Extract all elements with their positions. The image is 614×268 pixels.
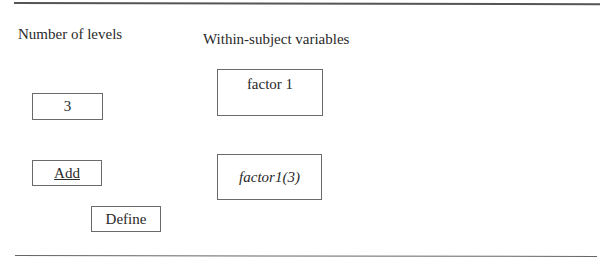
- list-item[interactable]: factor1(3): [239, 169, 300, 186]
- within-subject-variables-list[interactable]: factor1(3): [217, 154, 322, 200]
- define-button-label: Define: [106, 211, 147, 228]
- number-of-levels-label: Number of levels: [18, 26, 122, 43]
- define-button[interactable]: Define: [91, 206, 161, 232]
- add-button-label: Add: [54, 165, 80, 182]
- number-of-levels-input[interactable]: 3: [32, 93, 103, 120]
- within-subject-variables-label: Within-subject variables: [203, 31, 349, 48]
- add-button[interactable]: Add: [32, 160, 102, 186]
- number-of-levels-value: 3: [64, 98, 72, 115]
- factor-name-input[interactable]: factor 1: [217, 69, 323, 116]
- factor-name-value: factor 1: [247, 76, 293, 115]
- bottom-divider: [15, 255, 597, 257]
- top-divider: [14, 2, 600, 5]
